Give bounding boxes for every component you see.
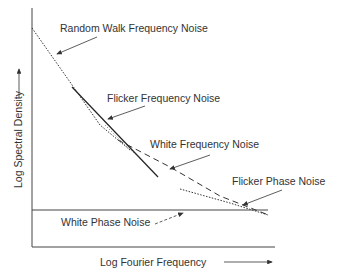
white-frequency-label: White Frequency Noise [150, 138, 259, 150]
random-walk-pointer [57, 37, 97, 54]
white-phase-label: White Phase Noise [61, 216, 150, 228]
random-walk-label: Random Walk Frequency Noise [60, 22, 208, 34]
flicker-phase-noise-curve [180, 189, 268, 215]
white-frequency-pointer [170, 155, 210, 169]
y-axis-label: Log Spectral Density [12, 90, 24, 188]
flicker-frequency-pointer [108, 106, 145, 119]
flicker-phase-label: Flicker Phase Noise [232, 175, 326, 187]
white-phase-pointer [155, 213, 183, 224]
flicker-phase-pointer [243, 190, 282, 205]
noise-spectrum-diagram: Random Walk Frequency Noise Flicker Freq… [0, 0, 341, 278]
flicker-frequency-label: Flicker Frequency Noise [107, 92, 220, 104]
x-axis-label: Log Fourier Frequency [100, 256, 207, 268]
